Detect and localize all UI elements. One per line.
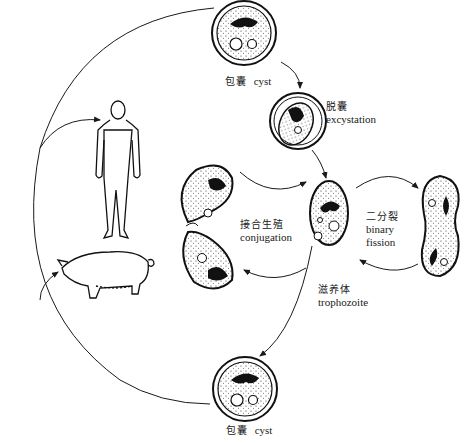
cycle-arrows bbox=[34, 8, 418, 404]
conjugation-label: 接合生殖 conjugation bbox=[240, 218, 292, 244]
cyst-top-label: 包囊 cyst bbox=[225, 75, 271, 88]
human-host-illustration bbox=[96, 101, 140, 238]
cyst-bottom-illustration bbox=[213, 357, 277, 421]
excystation-label: 脱囊 excystation bbox=[326, 100, 376, 126]
pig-host-illustration bbox=[58, 252, 154, 298]
trophozoite-illustration bbox=[310, 181, 348, 245]
trophozoite-label: 滋养体 trophozoite bbox=[318, 283, 368, 309]
binary-fission-label: 二分裂 binary fission bbox=[366, 210, 399, 249]
cyst-bottom-label: 包囊 cyst bbox=[226, 424, 272, 437]
cyst-top-illustration bbox=[212, 1, 276, 65]
excystation-illustration bbox=[270, 93, 326, 151]
binary-fission-illustration bbox=[422, 176, 459, 276]
life-cycle-diagram bbox=[0, 0, 473, 443]
conjugation-illustration bbox=[182, 166, 233, 289]
